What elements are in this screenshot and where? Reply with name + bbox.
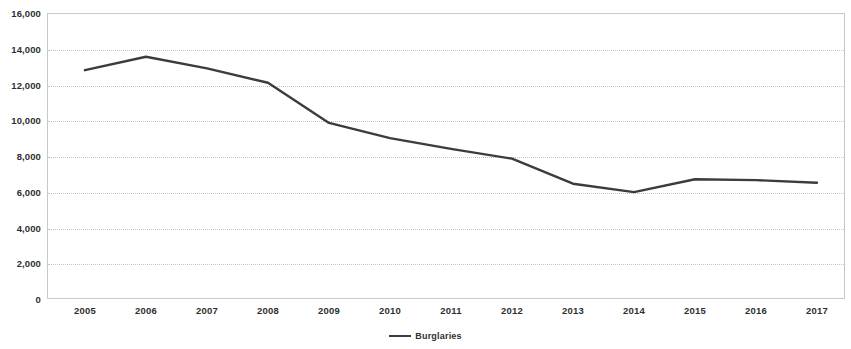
legend-line-icon [389, 335, 411, 337]
series-line-burglaries [85, 57, 817, 192]
x-tick-label: 2010 [379, 305, 401, 316]
y-tick-label: 2,000 [17, 258, 41, 269]
y-tick-label: 10,000 [11, 115, 41, 126]
x-tick-label: 2013 [562, 305, 584, 316]
x-tick-label: 2014 [623, 305, 645, 316]
y-tick-label: 8,000 [17, 151, 41, 162]
x-tick-label: 2009 [318, 305, 340, 316]
legend-item: Burglaries [389, 331, 462, 341]
y-tick-label: 4,000 [17, 222, 41, 233]
y-tick-label: 12,000 [11, 79, 41, 90]
x-tick-label: 2005 [74, 305, 96, 316]
x-tick-label: 2007 [196, 305, 218, 316]
y-axis-tick-labels: 02,0004,0006,0008,00010,00012,00014,0001… [0, 0, 44, 349]
x-tick-label: 2017 [806, 305, 828, 316]
line-chart: 02,0004,0006,0008,00010,00012,00014,0001… [0, 0, 851, 349]
x-tick-label: 2012 [501, 305, 523, 316]
y-tick-label: 14,000 [11, 43, 41, 54]
x-tick-label: 2008 [257, 305, 279, 316]
x-tick-label: 2016 [745, 305, 767, 316]
y-tick-label: 0 [36, 294, 41, 305]
x-tick-label: 2015 [684, 305, 706, 316]
legend-label: Burglaries [415, 331, 462, 341]
series-layer [47, 13, 845, 299]
chart-legend: Burglaries [0, 331, 851, 341]
x-axis-tick-labels: 2005200620072008200920102011201220132014… [0, 305, 851, 325]
x-tick-label: 2006 [135, 305, 157, 316]
y-tick-label: 16,000 [11, 8, 41, 19]
y-tick-label: 6,000 [17, 186, 41, 197]
x-tick-label: 2011 [440, 305, 461, 316]
